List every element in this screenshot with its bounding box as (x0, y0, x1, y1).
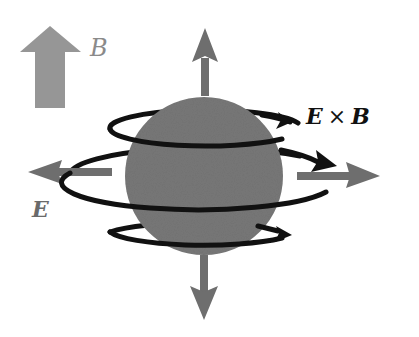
exb-right: B (351, 103, 370, 129)
sphere (125, 97, 283, 255)
b-field-label: B (90, 34, 108, 62)
e-field-label: E (32, 196, 49, 222)
field-arrow-up-icon (192, 28, 218, 96)
exb-left: E (306, 103, 323, 129)
field-arrow-down-icon (190, 255, 218, 320)
field-arrow-right-icon (297, 162, 380, 188)
legend-b-arrow-icon (20, 26, 81, 108)
exb-drift-label: E×B (306, 103, 370, 129)
exb-diagram (0, 0, 419, 337)
cross-product-operator: × (328, 104, 346, 129)
